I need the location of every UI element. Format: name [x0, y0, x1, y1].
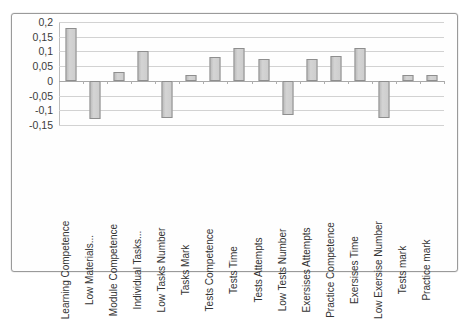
bar[interactable] [330, 56, 341, 81]
y-axis-tick-label: -0,05 [29, 90, 53, 101]
category-label: Tests Attempts [254, 237, 264, 302]
category-label-slot: Low Exersise Number [372, 130, 396, 270]
axis-tickmark [83, 81, 84, 84]
category-label: Low Tests Number [278, 229, 288, 312]
category-label-slot: Tests Time [227, 130, 251, 270]
category-label: Tests Time [229, 246, 239, 294]
bar-slot [107, 22, 131, 125]
bar-slot [276, 22, 300, 125]
bar-slot [348, 22, 372, 125]
bar-slot [420, 22, 444, 125]
category-label-slot: Practice mark [420, 130, 444, 270]
axis-tickmark [372, 81, 373, 84]
category-label: Tests mark [398, 246, 408, 294]
y-axis-tick-label: 0,15 [33, 31, 53, 42]
bar[interactable] [162, 81, 173, 118]
bar-slot [155, 22, 179, 125]
category-label-slot: Tests Competence [203, 130, 227, 270]
bar-slot [372, 22, 396, 125]
bar-slot [179, 22, 203, 125]
plot-area: 0,20,150,10,050-0,05-0,1-0,15 [59, 22, 444, 125]
bar-slot [300, 22, 324, 125]
category-label: Exersises Attempts [302, 227, 312, 312]
bar[interactable] [306, 59, 317, 81]
category-label: Module Competence [109, 224, 119, 316]
category-label: Tests Competence [205, 229, 215, 312]
axis-tickmark [252, 81, 253, 84]
category-label-slot: Exersises Attempts [300, 130, 324, 270]
category-label: Tasks Mark [181, 245, 191, 296]
bar-slot [324, 22, 348, 125]
axis-tickmark [420, 81, 421, 84]
axis-tickmark [179, 81, 180, 84]
y-axis-tick-label: 0 [47, 76, 53, 87]
bar[interactable] [402, 75, 413, 81]
axis-tickmark [131, 81, 132, 84]
y-axis-tick-label: -0,15 [29, 120, 53, 131]
category-label-slot: Practice Competence [324, 130, 348, 270]
bar[interactable] [90, 81, 101, 119]
axis-tickmark [348, 81, 349, 84]
category-label: Learning Competence [61, 221, 71, 319]
bar[interactable] [210, 57, 221, 81]
bar-slot [252, 22, 276, 125]
axis-tickmark [203, 81, 204, 84]
bar[interactable] [66, 28, 77, 81]
category-label-slot: Tests mark [396, 130, 420, 270]
category-label: Low Tasks Number [157, 228, 167, 313]
category-label-slot: Low Materials... [83, 130, 107, 270]
bar[interactable] [378, 81, 389, 118]
category-label: Individual Tasks... [133, 231, 143, 310]
axis-tickmark [300, 81, 301, 84]
category-label-slot: Module Competence [107, 130, 131, 270]
category-label: Practice mark [422, 239, 432, 300]
bar[interactable] [138, 51, 149, 80]
bar-slot [59, 22, 83, 125]
axis-tickmark [396, 81, 397, 84]
bar-slot [131, 22, 155, 125]
y-axis-tick-label: -0,1 [35, 105, 53, 116]
axis-tickmark [155, 81, 156, 84]
category-label-slot: Learning Competence [59, 130, 83, 270]
x-axis-category-labels: Learning CompetenceLow Materials...Modul… [59, 130, 444, 270]
bar-slot [83, 22, 107, 125]
axis-tickmark [227, 81, 228, 84]
y-axis-tick-label: 0,1 [38, 46, 53, 57]
axis-tickmark [107, 81, 108, 84]
category-label-slot: Tests Attempts [252, 130, 276, 270]
chart-frame: 0,20,150,10,050-0,05-0,1-0,15 Learning C… [11, 13, 458, 272]
bar[interactable] [114, 72, 125, 81]
gridline [59, 125, 444, 126]
y-axis-tick-label: 0,05 [33, 61, 53, 72]
category-label-slot: Exersises Time [348, 130, 372, 270]
bar[interactable] [186, 75, 197, 81]
category-label: Practice Competence [326, 222, 336, 318]
bar-slot [203, 22, 227, 125]
bar[interactable] [426, 75, 437, 81]
category-label-slot: Individual Tasks... [131, 130, 155, 270]
bar[interactable] [354, 48, 365, 80]
category-label-slot: Low Tests Number [276, 130, 300, 270]
category-label-slot: Tasks Mark [179, 130, 203, 270]
y-axis-tick-label: 0,2 [38, 17, 53, 28]
axis-tickmark [444, 81, 445, 84]
bar[interactable] [234, 48, 245, 80]
axis-tickmark [276, 81, 277, 84]
category-label: Low Exersise Number [374, 221, 384, 319]
bar-slot [227, 22, 251, 125]
bar[interactable] [282, 81, 293, 115]
axis-tickmark [324, 81, 325, 84]
category-label: Low Materials... [85, 235, 95, 305]
bar[interactable] [258, 59, 269, 81]
category-label: Exersises Time [350, 236, 360, 304]
bar-slot [396, 22, 420, 125]
category-label-slot: Low Tasks Number [155, 130, 179, 270]
